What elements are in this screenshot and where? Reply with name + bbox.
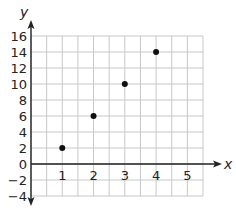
x-axis-label: x [223,156,233,172]
data-point [153,49,159,55]
grid [31,36,203,196]
y-tick-label: 16 [10,29,27,44]
y-tick-label: −2 [8,173,27,188]
x-tick-label: 4 [152,168,160,183]
y-tick-label: 10 [10,77,27,92]
y-tick-label: 4 [19,125,27,140]
y-axis-label: y [19,4,29,20]
x-tick-label: 2 [89,168,97,183]
y-tick-label: 2 [19,141,27,156]
y-tick-label: −4 [8,189,27,204]
x-tick-label: 1 [58,168,66,183]
data-point [91,113,97,119]
y-tick-labels: 1614121086420−2−4 [8,29,27,204]
x-tick-label: 5 [183,168,191,183]
data-point [122,81,128,87]
y-tick-label: 0 [19,157,27,172]
x-tick-label: 3 [121,168,129,183]
y-tick-label: 6 [19,109,27,124]
scatter-chart: 1614121086420−2−4 12345 x y [0,0,236,223]
y-tick-label: 8 [19,93,27,108]
data-point [59,145,65,151]
y-tick-label: 14 [10,45,27,60]
y-tick-label: 12 [10,61,27,76]
